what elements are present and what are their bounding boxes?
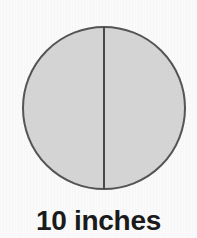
dimension-label: 10 inches [36,206,161,236]
circle-diagram [0,0,197,205]
caption-layer: 10 inches [0,203,197,238]
figure-root: 10 inches [0,0,197,238]
